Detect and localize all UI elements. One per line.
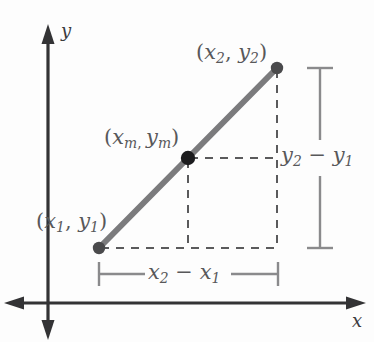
dx-second-var: x [200, 260, 212, 284]
minus-operator: − [169, 260, 200, 284]
dx-first-subscript: 2 [160, 270, 169, 286]
dy-first-var: y [281, 143, 293, 167]
ym-subscript: m [158, 135, 171, 151]
paren-open: ( [36, 209, 44, 233]
diagram-canvas [0, 0, 374, 342]
dy-second-var: y [333, 143, 345, 167]
dx-first-var: x [148, 260, 160, 284]
x-axis-label: x [352, 312, 362, 330]
x-axis-right-arrowhead [346, 297, 366, 310]
minus-operator: − [302, 143, 333, 167]
vertical-distance-label: y2 − y1 [281, 145, 353, 169]
point-label-xmym: (xm, ym) [104, 127, 179, 151]
dy-second-subscript: 1 [345, 153, 354, 169]
y-axis-label: y [61, 22, 71, 40]
horizontal-distance-label: x2 − x1 [148, 262, 220, 286]
paren-open: ( [196, 40, 204, 64]
x2-subscript: 2 [216, 50, 225, 66]
xm-var: x [112, 125, 124, 149]
x1-var: x [44, 209, 56, 233]
paren-open: ( [104, 125, 112, 149]
dx-second-subscript: 1 [211, 270, 220, 286]
y-axis-up-arrowhead [42, 24, 55, 44]
point-xmym-marker [181, 151, 195, 165]
point-x2y2-marker [271, 62, 283, 74]
xm-subscript: m [124, 135, 137, 151]
paren-close: ) [259, 40, 267, 64]
y1-var: y [78, 209, 90, 233]
paren-close: ) [171, 125, 179, 149]
y1-subscript: 1 [90, 219, 99, 235]
point-x1y1-marker [93, 242, 105, 254]
y-axis-down-arrowhead [42, 320, 55, 340]
midpoint-diagram-figure: (x2, y2) (xm, ym) (x1, y1) y2 − y1 x2 − … [0, 0, 374, 342]
paren-close: ) [99, 209, 107, 233]
y2-var: y [238, 40, 250, 64]
x2-var: x [204, 40, 216, 64]
ym-var: y [146, 125, 158, 149]
axes-group [4, 24, 366, 340]
point-label-x1y1: (x1, y1) [36, 211, 107, 235]
comma-separator: , [65, 209, 78, 233]
y2-subscript: 2 [250, 50, 259, 66]
x-axis-left-arrowhead [4, 297, 24, 310]
comma-separator: , [225, 40, 238, 64]
point-label-x2y2: (x2, y2) [196, 42, 267, 66]
x1-subscript: 1 [56, 219, 65, 235]
dy-first-subscript: 2 [293, 153, 302, 169]
comma-separator: , [137, 135, 146, 151]
